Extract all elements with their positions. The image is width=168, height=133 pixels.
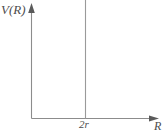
x-axis-tick-label-2r: 2r (79, 119, 89, 130)
y-axis-label: V(R) (1, 3, 26, 16)
plot-canvas (0, 0, 168, 133)
x-axis-label: R (154, 120, 161, 132)
y-axis-arrowhead-icon (28, 3, 35, 13)
potential-vs-separation-figure: V(R) R 2r (0, 0, 168, 133)
